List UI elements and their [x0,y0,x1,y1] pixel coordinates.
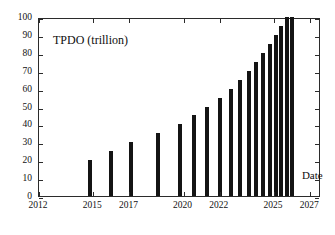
y-axis-tick [315,109,319,110]
x-axis-tick-label: 2020 [173,201,192,211]
bar [274,35,278,196]
bar [109,151,113,196]
x-axis-tick-label: 2022 [209,201,228,211]
y-axis-tick [39,37,43,38]
y-axis-tick [315,198,319,199]
y-axis-tick-label: 30 [0,138,32,148]
bar [192,115,196,196]
bar [229,89,233,196]
x-axis-tick-label: 2015 [83,201,102,211]
y-axis-tick-label: 40 [0,120,32,130]
x-axis-tick-label: 2012 [29,201,48,211]
y-axis-tick [315,19,319,20]
x-axis-tick [310,19,311,23]
bar [156,133,160,196]
x-axis-tick [274,192,275,196]
y-axis-tick-label: 80 [0,49,32,59]
bar [285,17,289,196]
bar [205,107,209,197]
bar [279,26,283,196]
bar [268,44,272,196]
bar [238,80,242,196]
y-axis-tick [315,162,319,163]
y-axis-tick-label: 10 [0,174,32,184]
x-axis-tick [274,19,275,23]
bar [88,160,92,196]
bar [290,17,294,196]
y-axis-tick [315,126,319,127]
plot-area: TPDO (trillion) [38,18,320,197]
y-axis-tick-label: 60 [0,85,32,95]
y-axis-tick-label: 90 [0,31,32,41]
y-axis-tick [315,91,319,92]
bar [261,53,265,196]
series-title: TPDO (trillion) [53,33,128,48]
x-axis-tick-label: 2025 [264,201,283,211]
x-axis-tick [184,192,185,196]
y-axis-tick-label: 0 [0,192,32,202]
x-axis-tick-label: 2017 [119,201,138,211]
y-axis-tick-label: 70 [0,67,32,77]
x-axis-tick [129,19,130,23]
x-axis-tick-label: 2027 [300,201,319,211]
y-axis-tick [315,144,319,145]
y-axis-tick [39,144,43,145]
x-axis-tick [220,19,221,23]
y-axis-tick-label: 100 [0,13,32,23]
figure-canvas: 0102030405060708090100 TPDO (trillion) D… [0,0,335,235]
x-axis-title: Date [302,169,323,181]
y-axis-tick [39,198,43,199]
bar [129,142,133,196]
y-axis-tick-label: 20 [0,156,32,166]
y-axis-tick [315,55,319,56]
x-axis-tick [39,192,40,196]
x-axis-tick [220,192,221,196]
y-axis-tick [39,126,43,127]
x-axis-tick [93,192,94,196]
x-axis-tick [310,192,311,196]
bar [247,71,251,196]
bar [254,62,258,196]
y-axis-tick-label: 50 [0,103,32,113]
y-axis-tick [39,91,43,92]
x-axis-tick [39,19,40,23]
x-axis-tick [184,19,185,23]
x-axis-tick [129,192,130,196]
y-axis-tick [39,73,43,74]
y-axis-tick [39,55,43,56]
y-axis-tick [39,162,43,163]
bar [178,124,182,196]
y-axis-tick [315,73,319,74]
bar [218,98,222,196]
y-axis-tick [315,37,319,38]
y-axis-tick [39,180,43,181]
x-axis-tick [93,19,94,23]
y-axis-tick [39,109,43,110]
